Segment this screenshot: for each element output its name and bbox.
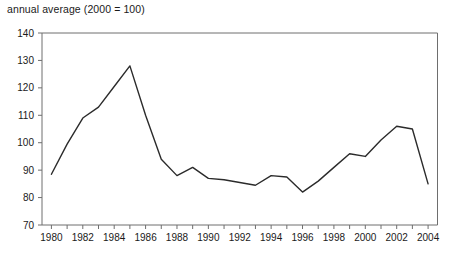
x-axis-tick-label: 1986: [134, 232, 157, 243]
plot-border: [42, 33, 438, 225]
x-axis: 1980198219841986198819901992199419961998…: [40, 225, 439, 243]
x-axis-tick-label: 1996: [291, 232, 314, 243]
chart-figure: annual average (2000 = 100) 708090100110…: [0, 0, 451, 262]
x-axis-tick-label: 2002: [386, 232, 409, 243]
data-series-group: [51, 66, 428, 192]
y-axis-tick-label: 100: [17, 137, 34, 148]
x-axis-tick-label: 1998: [323, 232, 346, 243]
x-axis-tick-label: 1990: [197, 232, 220, 243]
y-axis: 708090100110120130140: [17, 28, 42, 231]
x-axis-tick-label: 1982: [72, 232, 95, 243]
y-axis-tick-label: 90: [23, 165, 35, 176]
y-axis-tick-label: 70: [23, 220, 35, 231]
plot-frame: [42, 33, 438, 225]
x-axis-tick-label: 1984: [103, 232, 126, 243]
x-axis-tick-label: 2000: [354, 232, 377, 243]
x-axis-tick-label: 2004: [417, 232, 440, 243]
data-line: [51, 66, 428, 192]
line-chart-plot: 708090100110120130140 198019821984198619…: [0, 0, 451, 262]
y-axis-tick-label: 80: [23, 192, 35, 203]
y-axis-tick-label: 130: [17, 55, 34, 66]
y-axis-tick-label: 140: [17, 28, 34, 39]
x-axis-tick-label: 1992: [229, 232, 252, 243]
y-axis-tick-label: 120: [17, 82, 34, 93]
x-axis-tick-label: 1980: [40, 232, 63, 243]
x-axis-tick-label: 1988: [166, 232, 189, 243]
x-axis-tick-label: 1994: [260, 232, 283, 243]
y-axis-tick-label: 110: [18, 110, 34, 121]
